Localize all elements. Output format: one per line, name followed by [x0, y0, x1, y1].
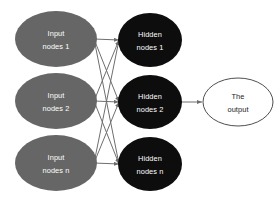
input-node-2-shape	[15, 73, 97, 129]
edge-input-3-to-hidden-3	[94, 163, 119, 164]
network-nodes: Inputnodes 1Inputnodes 2Inputnodes nHidd…	[15, 11, 273, 191]
input-node-3-shape	[15, 135, 97, 191]
output-node-1[interactable]: Theoutput	[203, 78, 273, 126]
hidden-node-2[interactable]: Hiddennodes 2	[118, 75, 182, 129]
input-node-2[interactable]: Inputnodes 2	[15, 73, 97, 129]
input-node-1-shape	[15, 11, 97, 67]
input-node-1[interactable]: Inputnodes 1	[15, 11, 97, 67]
input-node-3[interactable]: Inputnodes n	[15, 135, 97, 191]
edge-input-1-to-hidden-1	[94, 39, 119, 40]
hidden-node-3-shape	[118, 137, 182, 191]
hidden-node-1[interactable]: Hiddennodes 1	[118, 13, 182, 67]
network-canvas: Inputnodes 1Inputnodes 2Inputnodes nHidd…	[0, 0, 277, 204]
neural-network-diagram: Inputnodes 1Inputnodes 2Inputnodes nHidd…	[0, 0, 277, 204]
hidden-node-3[interactable]: Hiddennodes n	[118, 137, 182, 191]
output-node-1-shape	[203, 78, 273, 126]
hidden-node-1-shape	[118, 13, 182, 67]
hidden-node-2-shape	[118, 75, 182, 129]
